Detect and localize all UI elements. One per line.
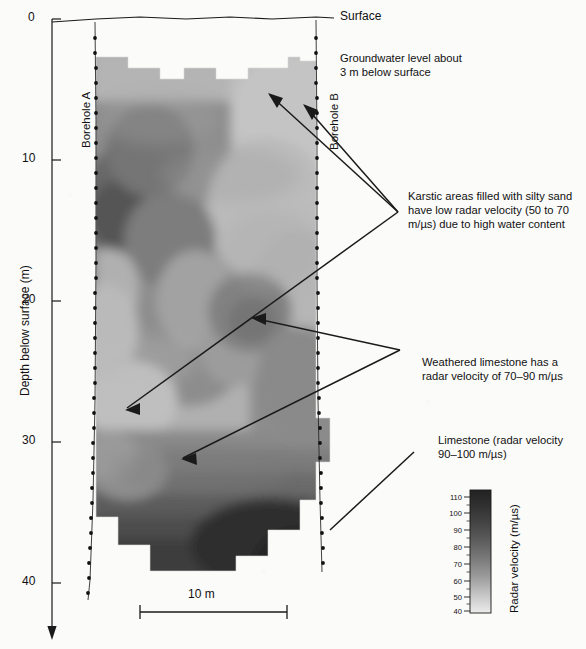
colorbar-tick-110: 110: [440, 493, 462, 502]
karstic-annotation-line-2: have low radar velocity (50 to 70: [408, 204, 569, 218]
ground-surface-line: [52, 17, 334, 22]
y-tick-label-10: 10: [22, 151, 35, 165]
weathered-limestone-annotation-line-1: Weathered limestone has a: [422, 356, 558, 370]
colorbar-tick-70: 70: [440, 560, 462, 569]
y-tick-label-30: 30: [22, 433, 35, 447]
tomogram-image: [71, 50, 370, 592]
limestone-annotation-line-2: 90–100 m/µs): [438, 448, 507, 462]
colorbar-tick-40: 40: [440, 607, 462, 616]
karstic-annotation-line-3: m/µs) due to high water content: [408, 218, 565, 232]
colorbar-tick-60: 60: [440, 577, 462, 586]
borehole-a-label: Borehole A: [80, 92, 92, 148]
figure-canvas: 0 10 20 30 40 Depth below surface (m) Bo…: [0, 0, 586, 649]
colorbar: [464, 490, 491, 613]
scale-bar: [140, 605, 287, 619]
karstic-annotation-line-1: Karstic areas filled with silty sand: [408, 190, 572, 204]
groundwater-annotation-line-2: 3 m below surface: [340, 66, 431, 80]
colorbar-tick-100: 100: [440, 509, 462, 518]
colorbar-tick-80: 80: [440, 543, 462, 552]
scale-bar-label: 10 m: [188, 588, 215, 602]
weathered-limestone-annotation-line-2: radar velocity of 70–90 m/µs: [422, 370, 563, 384]
colorbar-tick-90: 90: [440, 526, 462, 535]
colorbar-tick-50: 50: [440, 593, 462, 602]
y-tick-label-40: 40: [22, 574, 35, 588]
y-axis-title: Depth below surface (m): [18, 265, 32, 396]
surface-label: Surface: [340, 10, 381, 24]
depth-axis: [47, 19, 61, 640]
borehole-b-label: Borehole B: [328, 93, 340, 150]
groundwater-annotation-line-1: Groundwater level about: [340, 52, 462, 66]
colorbar-title: Radar velocity (m/µs): [508, 504, 520, 613]
limestone-annotation-line-1: Limestone (radar velocity: [438, 434, 563, 448]
y-tick-label-0: 0: [28, 10, 35, 24]
